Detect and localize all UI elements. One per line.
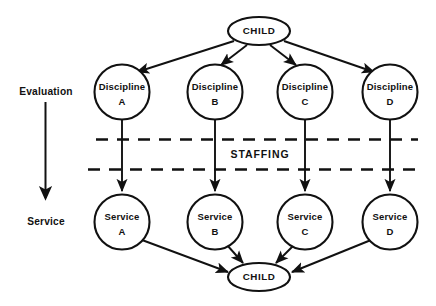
service-b-label-line1: Service: [198, 211, 233, 222]
discipline-b-label-line2: B: [211, 96, 218, 107]
node-discipline-c[interactable]: Discipline C: [278, 65, 333, 120]
link-service-b-to-child: [227, 245, 243, 263]
service-c-label-line1: Service: [288, 211, 323, 222]
link-service-c-to-child: [276, 245, 294, 263]
node-discipline-b[interactable]: Discipline B: [188, 65, 243, 120]
service-b-label-line2: B: [211, 226, 218, 237]
axis-group: Evaluation Service: [19, 86, 73, 227]
node-service-d[interactable]: Service D: [363, 195, 418, 250]
staffing-label: STAFFING: [231, 148, 290, 160]
node-service-c[interactable]: Service C: [278, 195, 333, 250]
discipline-b-label-line1: Discipline: [192, 81, 238, 92]
diagram-canvas: Evaluation Service STAFFIN: [0, 0, 436, 306]
node-child-bottom[interactable]: CHILD: [228, 263, 290, 291]
node-service-a[interactable]: Service A: [95, 195, 150, 250]
node-discipline-a[interactable]: Discipline A: [95, 65, 150, 120]
service-c-label-line2: C: [301, 226, 308, 237]
link-child-to-discipline-c: [270, 45, 296, 65]
axis-bottom-label: Service: [27, 216, 65, 227]
service-a-label-line2: A: [118, 226, 125, 237]
service-a-label-line1: Service: [105, 211, 140, 222]
discipline-a-label-line2: A: [118, 96, 125, 107]
axis-top-label: Evaluation: [19, 86, 73, 97]
flow-diagram: Evaluation Service STAFFIN: [0, 0, 436, 306]
discipline-d-label-line2: D: [386, 96, 393, 107]
discipline-a-label-line1: Discipline: [99, 81, 145, 92]
discipline-d-label-line1: Discipline: [367, 81, 413, 92]
child-bottom-label: CHILD: [243, 271, 275, 282]
discipline-c-label-line2: C: [301, 96, 308, 107]
service-d-label-line1: Service: [373, 211, 408, 222]
staffing-band: STAFFING: [88, 140, 418, 170]
discipline-c-label-line1: Discipline: [282, 81, 328, 92]
node-child-top[interactable]: CHILD: [228, 17, 290, 45]
service-d-label-line2: D: [386, 226, 393, 237]
child-top-label: CHILD: [243, 25, 275, 36]
node-discipline-d[interactable]: Discipline D: [363, 65, 418, 120]
link-child-to-discipline-b: [221, 45, 247, 65]
node-service-b[interactable]: Service B: [188, 195, 243, 250]
